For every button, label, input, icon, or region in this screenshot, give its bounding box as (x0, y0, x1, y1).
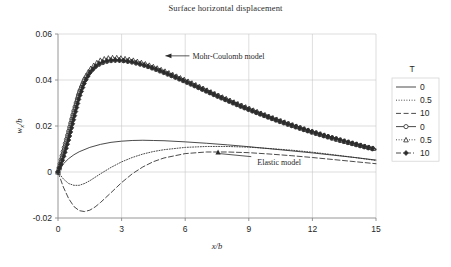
series-2 (58, 152, 376, 212)
series-4 (56, 55, 376, 174)
legend-box (392, 78, 439, 161)
series-3 (56, 58, 376, 174)
series-5 (56, 58, 376, 175)
y-tick-label: 0 (47, 167, 52, 177)
elastic-leader-line (218, 153, 251, 156)
y-tick-label: 0.04 (35, 75, 52, 85)
legend-title: T (409, 64, 414, 74)
y-tick-label: 0.06 (35, 29, 52, 39)
legend-item[interactable]: 10 (396, 108, 430, 118)
series-0 (58, 140, 376, 172)
legend-item-label: 10 (420, 148, 430, 158)
x-tick-label: 6 (183, 224, 188, 234)
legend-item-label: 0 (420, 122, 425, 132)
svg-text:wx/b: wx/b (14, 119, 25, 134)
legend-item[interactable]: 0 (396, 122, 425, 132)
chart-figure: Surface horizontal displacement 03691215… (0, 0, 451, 267)
legend-item-label: 0.5 (420, 135, 432, 145)
mohr-coulomb-arrowhead (165, 53, 171, 58)
x-tick-label: 3 (119, 224, 124, 234)
legend-item[interactable]: 0 (396, 82, 425, 92)
x-axis-title: x/b (211, 241, 222, 251)
legend-item-label: 0 (420, 82, 425, 92)
legend-item-label: 0.5 (420, 95, 432, 105)
x-tick-label: 0 (56, 224, 61, 234)
y-axis-title: wx/b (14, 119, 25, 134)
chart-plot-area: 03691215-0.0200.020.040.06 x/bwx/b Mohr-… (0, 0, 451, 267)
legend-item[interactable]: 10 (396, 148, 430, 158)
data-series-layer (56, 55, 376, 211)
y-tick-label: 0.02 (35, 121, 52, 131)
annotation-elastic-model: Elastic model (257, 158, 302, 167)
chart-legend: T00.51000.510 (392, 64, 439, 161)
axis-titles: x/bwx/b (14, 119, 222, 251)
annotation-mohr-coulomb: Mohr-Coulomb model (192, 52, 265, 61)
x-tick-label: 15 (371, 224, 381, 234)
y-tick-label: -0.02 (33, 213, 53, 223)
legend-item[interactable]: 0.5 (396, 135, 432, 145)
x-tick-label: 9 (246, 224, 251, 234)
x-tick-label: 12 (308, 224, 318, 234)
legend-item[interactable]: 0.5 (396, 95, 432, 105)
legend-item-label: 10 (420, 108, 430, 118)
